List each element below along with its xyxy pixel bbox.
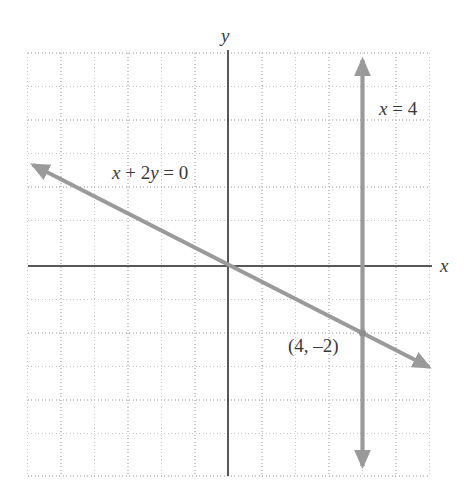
x-axis-label: x — [440, 256, 448, 275]
diagonal-line-equation-label: x + 2y = 0 — [112, 163, 188, 182]
coordinate-axes — [28, 50, 433, 476]
coordinate-plane-figure: y x x + 2y = 0 x = 4 (4, –2) — [0, 0, 469, 491]
diagonal-label-equals-zero: = 0 — [159, 162, 189, 183]
y-axis-label: y — [221, 26, 229, 45]
diagonal-label-plus-two: + 2 — [120, 162, 150, 183]
intersection-point-label: (4, –2) — [288, 336, 339, 355]
diagonal-label-var-y: y — [150, 162, 158, 183]
vertical-line-equation-label: x = 4 — [379, 99, 417, 118]
intersection-point-marker — [359, 329, 366, 336]
graph-canvas — [0, 0, 469, 491]
vertical-label-equals-four: = 4 — [387, 98, 417, 119]
